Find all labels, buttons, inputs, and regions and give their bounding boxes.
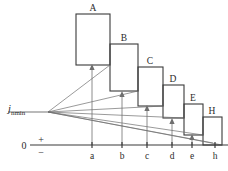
bar-label-a: A: [90, 3, 97, 13]
plus-sign-label: +: [38, 134, 44, 145]
fan-ray-group: [48, 65, 222, 145]
tick-label-a: a: [90, 151, 95, 161]
minus-sign-label: −: [38, 147, 44, 158]
bar-label-d: D: [170, 74, 177, 84]
bar-rect-h: [203, 117, 222, 145]
bar-rect-d: [163, 85, 184, 118]
bar-rect-c: [138, 67, 163, 106]
tick-label-group: a b c d e h: [90, 151, 218, 161]
bar-label-c: C: [147, 56, 153, 66]
tick-label-d: d: [170, 151, 175, 161]
stepped-bar-diagram: A B C D E H: [0, 0, 228, 171]
level-label-subscript: nmin: [11, 109, 26, 117]
arrow-head-d: [169, 118, 174, 124]
bar-rect-e: [184, 104, 203, 135]
bar-rect-b: [110, 44, 138, 91]
tick-label-b: b: [120, 151, 125, 161]
origin-zero-label: 0: [22, 140, 27, 151]
diagram-canvas: A B C D E H: [0, 0, 228, 171]
bar-rect-a: [76, 14, 110, 65]
bar-group: [76, 14, 222, 145]
bar-label-b: B: [121, 33, 127, 43]
fan-ray-baseline: [48, 112, 213, 143]
bar-label-group: A B C D E H: [90, 3, 216, 116]
tick-label-e: e: [190, 151, 194, 161]
tick-label-c: c: [145, 151, 149, 161]
bar-label-h: H: [209, 106, 216, 116]
level-label-jnmin: jnmin: [6, 103, 26, 117]
arrow-group: [89, 64, 194, 145]
tick-label-h: h: [213, 151, 218, 161]
bar-label-e: E: [190, 93, 196, 103]
